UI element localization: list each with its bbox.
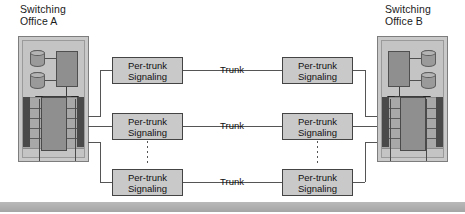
- office-b-exit-line-row1: [365, 116, 377, 117]
- bottom-decorative-bar: [0, 202, 465, 212]
- database-cylinder-icon: [30, 72, 45, 89]
- per-trunk-signaling-box-row2-right[interactable]: Per-trunk Signaling: [282, 113, 353, 140]
- per-trunk-signaling-box-row1-right[interactable]: Per-trunk Signaling: [282, 57, 353, 84]
- processor-block: [388, 51, 410, 87]
- office-b-exit-line-row2: [353, 126, 377, 127]
- feed-line-row1-left: [100, 70, 112, 71]
- fabric-edge-dark-right: [436, 97, 443, 147]
- office-b-exit-line-row3: [365, 142, 377, 143]
- office-b-inner-panel: [381, 40, 444, 158]
- feed-line-row3-left: [100, 182, 112, 183]
- riser-line-row1-right: [365, 70, 366, 117]
- processor-drop-line: [399, 87, 400, 96]
- riser-line-row3-right: [365, 142, 366, 182]
- fabric-feeder-line: [75, 99, 76, 161]
- cylinder-connector-line: [45, 80, 56, 81]
- riser-line-row1-left: [100, 70, 101, 117]
- switching-matrix-block: [400, 97, 426, 151]
- feed-line-row1-right: [353, 70, 365, 71]
- per-trunk-signaling-box-row2-left[interactable]: Per-trunk Signaling: [112, 113, 183, 140]
- database-cylinder-icon: [421, 50, 436, 67]
- office-b-caption: Switching Office B: [385, 3, 431, 27]
- trunk-label-row1: Trunk: [202, 64, 262, 75]
- office-a-exit-line-row1: [88, 116, 100, 117]
- fabric-feeder-line: [390, 99, 391, 161]
- processor-drop-line: [66, 87, 67, 96]
- fabric-edge-dark-left: [382, 97, 389, 147]
- fabric-edge-dark-right: [77, 97, 84, 147]
- trunk-label-row3: Trunk: [202, 176, 262, 187]
- cylinder-connector-line: [410, 58, 421, 59]
- office-a-exit-line-row2: [88, 126, 112, 127]
- fabric-feeder-line: [426, 99, 427, 161]
- per-trunk-signaling-box-row3-right[interactable]: Per-trunk Signaling: [282, 169, 353, 196]
- switching-office-b: [377, 36, 448, 162]
- per-trunk-signaling-box-row1-left[interactable]: Per-trunk Signaling: [112, 57, 183, 84]
- office-a-inner-panel: [22, 40, 85, 158]
- trunk-label-row2: Trunk: [202, 120, 262, 131]
- database-cylinder-icon: [421, 72, 436, 89]
- switching-office-a: [18, 36, 89, 162]
- processor-block: [56, 51, 78, 87]
- switching-matrix-block: [41, 97, 67, 151]
- database-cylinder-icon: [30, 50, 45, 67]
- office-a-exit-line-row3: [88, 142, 100, 143]
- cylinder-connector-line: [45, 58, 56, 59]
- feed-line-row3-right: [353, 182, 365, 183]
- continuation-dots-left: [147, 141, 148, 165]
- diagram-canvas: Switching Office A Switching Office B: [0, 0, 465, 214]
- fabric-edge-dark-left: [23, 97, 30, 147]
- continuation-dots-right: [317, 141, 318, 165]
- riser-line-row3-left: [100, 142, 101, 182]
- office-a-caption: Switching Office A: [20, 3, 66, 27]
- cylinder-connector-line: [410, 80, 421, 81]
- per-trunk-signaling-box-row3-left[interactable]: Per-trunk Signaling: [112, 169, 183, 196]
